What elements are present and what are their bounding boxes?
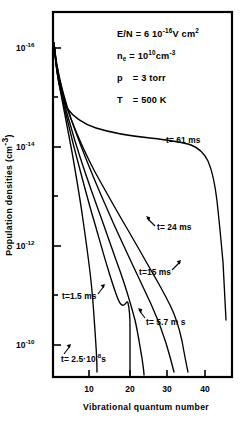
x-tick-label-20: 20 bbox=[125, 384, 135, 394]
curve-label-t-24ms: t= 24 ms bbox=[157, 222, 192, 232]
curve-t-2p5e-8s bbox=[54, 43, 130, 375]
y-axis-title: Population densities (cm-3) bbox=[0, 134, 14, 256]
curve-label-t-61ms: t= 61 ms bbox=[166, 135, 201, 145]
x-tick-label-30: 30 bbox=[162, 384, 172, 394]
chart-svg: 10-16 10-14 10-12 10-10 10 20 30 40 Vibr… bbox=[0, 0, 244, 424]
figure-population-densities: 10-16 10-14 10-12 10-10 10 20 30 40 Vibr… bbox=[0, 0, 244, 424]
x-axis-title: Vibrational quantum number bbox=[83, 402, 209, 412]
x-tick-label-10: 10 bbox=[84, 384, 94, 394]
param-electron-density: ne = 1010cm-3 bbox=[117, 49, 176, 62]
param-e-over-n: E/N = 6 10-16V cm2 bbox=[117, 27, 199, 39]
curve-label-t-1p5ms: t=1.5 ms bbox=[62, 291, 97, 301]
x-tick-label-40: 40 bbox=[200, 384, 210, 394]
y-axis-ticks bbox=[53, 48, 61, 345]
parameter-annotations: E/N = 6 10-16V cm2 ne = 1010cm-3 p= 3 to… bbox=[117, 27, 199, 105]
x-tick-labels: 10 20 30 40 bbox=[84, 384, 210, 394]
curve-label-t-15ms: t=15 ms bbox=[139, 267, 171, 277]
y-tick-label-3: 10-12 bbox=[16, 239, 35, 251]
curve-t-61ms bbox=[54, 43, 226, 320]
curve-label-t-2p5e-8s: t= 2.5·10-8s bbox=[61, 352, 106, 364]
param-temperature: T= 500 K bbox=[117, 95, 167, 105]
curve-label-t-5p7ms: t= 5.7 m s bbox=[146, 317, 186, 327]
y-tick-label-4: 10-10 bbox=[16, 338, 35, 350]
y-tick-labels: 10-16 10-14 10-12 10-10 bbox=[16, 41, 35, 350]
plot-frame bbox=[53, 12, 232, 377]
y-tick-label-2: 10-14 bbox=[16, 140, 35, 152]
y-tick-label-1: 10-16 bbox=[16, 41, 35, 53]
param-pressure: p= 3 torr bbox=[117, 73, 166, 83]
